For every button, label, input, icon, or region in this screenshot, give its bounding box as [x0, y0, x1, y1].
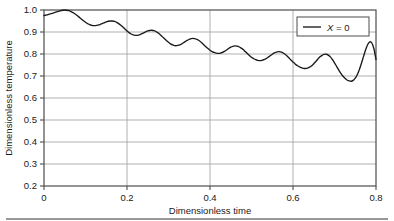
x-axis-title: Dimensionless time — [169, 205, 251, 216]
y-tick-label: 0.8 — [24, 48, 37, 59]
y-tick-label: 0.5 — [24, 114, 37, 125]
x-tick-label: 0.8 — [369, 192, 382, 203]
y-tick-label: 1.0 — [24, 4, 37, 15]
x-tick-label: 0.4 — [203, 192, 216, 203]
x-tick-label: 0.6 — [286, 192, 299, 203]
x-tick-label: 0.2 — [120, 192, 133, 203]
y-tick-label: 0.7 — [24, 70, 37, 81]
y-tick-label: 0.6 — [24, 92, 37, 103]
y-tick-label: 0.4 — [24, 136, 37, 147]
y-tick-label: 0.9 — [24, 26, 37, 37]
y-tick-label: 0.3 — [24, 158, 37, 169]
y-axis-tick-labels: 0.20.30.40.50.60.70.80.91.0 — [24, 4, 37, 191]
y-tick-label: 0.2 — [24, 180, 37, 191]
legend-label-x-equals-0: X = 0 — [326, 22, 349, 33]
line-chart: 0.20.30.40.50.60.70.80.91.0 00.20.40.60.… — [0, 0, 394, 221]
legend: X = 0 — [297, 17, 369, 36]
y-axis-title: Dimensionless temperature — [3, 40, 14, 156]
figure-container: 0.20.30.40.50.60.70.80.91.0 00.20.40.60.… — [0, 0, 394, 221]
x-tick-label: 0 — [41, 192, 46, 203]
